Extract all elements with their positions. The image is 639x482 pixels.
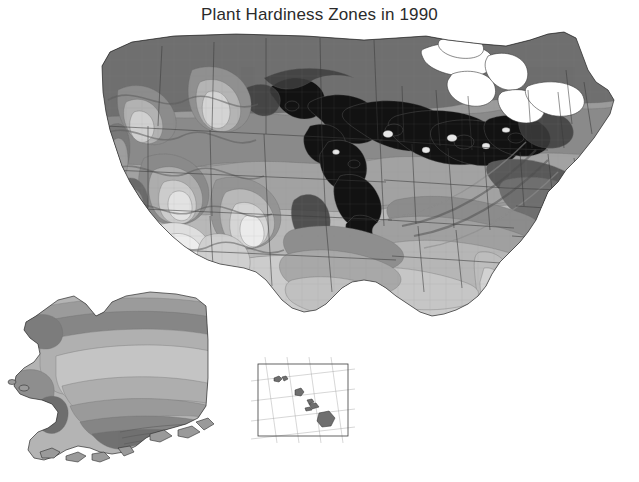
page-title: Plant Hardiness Zones in 1990: [0, 5, 639, 25]
hawaii-inset-map: [257, 363, 349, 437]
alaska-zone-bands: [0, 282, 222, 476]
map-figure: Plant Hardiness Zones in 1990: [0, 0, 639, 482]
alaska-inset-map: [0, 282, 222, 476]
